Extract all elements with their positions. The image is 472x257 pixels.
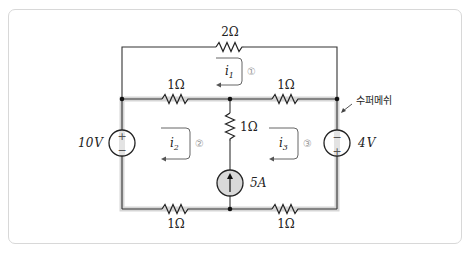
minus-sign: − [332,131,341,144]
label-5a: 5A [250,176,267,190]
mesh-number-3: ③ [303,138,312,149]
plus-sign: + [117,130,126,143]
label-resistor-bottom-left: 1Ω [167,217,185,231]
voltage-source-10v: + − [109,130,135,157]
minus-sign: − [117,144,126,157]
label-4v: 4V [357,136,377,150]
label-resistor-center: 1Ω [240,120,258,134]
current-source-5a [217,170,243,196]
mesh-current-i3: i3 [279,136,288,152]
circuit-diagram: + − 10V − + 4V 5A 2Ω 1Ω 1Ω 1Ω 1Ω 1Ω i1 i… [0,0,472,257]
supermesh-label: 수퍼메쉬 [356,95,392,106]
mesh-number-2: ② [195,138,204,149]
arrow-left-icon [216,83,221,88]
supermesh-pointer [341,104,352,113]
resistor-top-2ohm [216,43,244,52]
arrow-left-icon [161,157,166,162]
label-10v: 10V [78,136,104,150]
arrow-left-icon [269,157,274,162]
label-resistor-middle-right: 1Ω [277,78,295,92]
mesh-current-i1: i1 [225,64,234,80]
voltage-source-4v: − + [324,130,350,158]
mesh-number-1: ① [247,66,256,77]
plus-sign: + [332,145,341,158]
resistor-center-vertical [226,113,235,141]
label-resistor-middle-left: 1Ω [167,78,185,92]
mesh-current-i2: i2 [170,136,179,152]
label-resistor-bottom-right: 1Ω [277,217,295,231]
label-resistor-top: 2Ω [221,25,239,39]
